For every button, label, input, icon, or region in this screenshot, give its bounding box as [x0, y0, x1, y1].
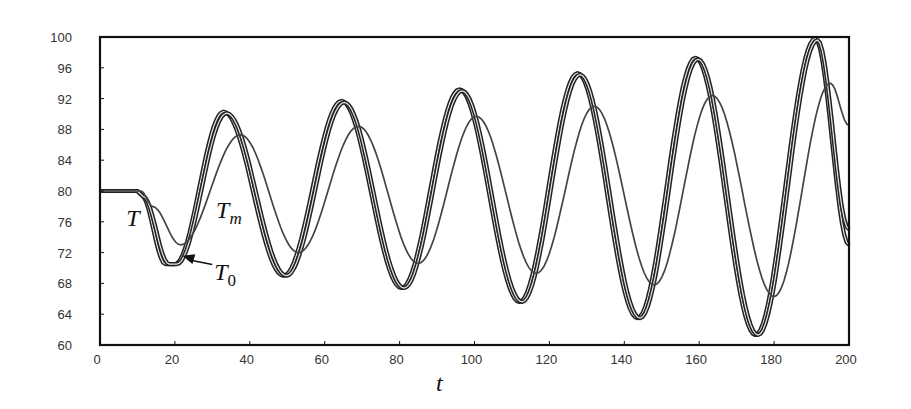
y-tick-label: 80 [58, 184, 72, 199]
x-tick-label: 0 [93, 352, 100, 367]
plot-frame [100, 37, 849, 345]
chart: 0204060801001201401601802006064687276808… [0, 0, 911, 409]
x-tick-label: 60 [314, 352, 328, 367]
series-T0-core [100, 40, 849, 335]
x-tick-label: 120 [536, 352, 558, 367]
x-tick-label: 160 [685, 352, 707, 367]
y-tick-label: 92 [58, 92, 72, 107]
y-tick-label: 64 [58, 307, 72, 322]
x-tick-label: 180 [760, 352, 782, 367]
line-chart: 0204060801001201401601802006064687276808… [0, 0, 911, 409]
label-T0: T0 [214, 259, 236, 290]
series-layer [100, 39, 849, 336]
x-axis-label: t [436, 370, 444, 396]
x-tick-label: 40 [240, 352, 254, 367]
y-tick-label: 60 [58, 338, 72, 353]
y-tick-label: 68 [58, 276, 72, 291]
x-tick-label: 140 [610, 352, 632, 367]
label-T: T [126, 205, 141, 231]
y-tick-label: 88 [58, 122, 72, 137]
series-T0-line [100, 40, 849, 335]
axis-ticks: 0204060801001201401601802006064687276808… [50, 30, 857, 367]
x-tick-label: 80 [389, 352, 403, 367]
x-tick-label: 100 [461, 352, 483, 367]
y-tick-label: 96 [58, 61, 72, 76]
x-tick-label: 200 [835, 352, 857, 367]
label-Tm: Tm [216, 197, 242, 228]
y-tick-label: 72 [58, 246, 72, 261]
y-tick-label: 76 [58, 215, 72, 230]
x-tick-label: 20 [165, 352, 179, 367]
y-tick-label: 100 [50, 30, 72, 45]
y-tick-label: 84 [58, 153, 72, 168]
